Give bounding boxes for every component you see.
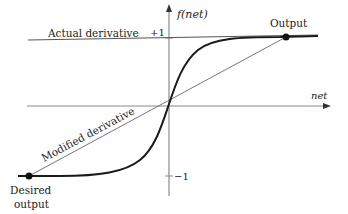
minus-one-label: −1 bbox=[174, 171, 189, 182]
desired-output-label-line1: Desired bbox=[10, 184, 52, 196]
desired-output-point bbox=[26, 173, 33, 180]
actual-derivative-label: Actual derivative bbox=[47, 27, 139, 39]
plus-one-label: +1 bbox=[150, 27, 165, 38]
y-axis-arrow-icon bbox=[166, 4, 172, 12]
x-axis-label: net bbox=[311, 90, 328, 101]
modified-derivative-label: Modified derivative bbox=[39, 104, 136, 163]
sigmoid-derivative-diagram: f(net) net +1 −1 Actual derivative Modif… bbox=[0, 0, 348, 214]
output-point bbox=[283, 34, 290, 41]
desired-output-label-line2: output bbox=[14, 198, 50, 210]
output-label: Output bbox=[270, 17, 308, 29]
x-axis-arrow-icon bbox=[323, 103, 331, 109]
y-axis-label: f(net) bbox=[176, 8, 208, 21]
